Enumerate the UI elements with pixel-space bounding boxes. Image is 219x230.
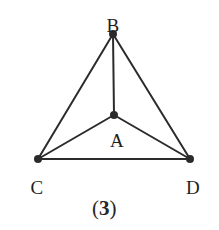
graph-edge-b-c	[38, 34, 113, 159]
graph-node-c	[34, 155, 42, 163]
figure-container: BACD (3)	[0, 0, 219, 230]
vertex-label-a: A	[110, 131, 124, 150]
caption-close-paren: )	[110, 196, 117, 220]
graph-edge-b-d	[113, 34, 190, 159]
vertex-label-d: D	[186, 178, 200, 197]
vertex-label-b: B	[107, 16, 120, 35]
graph-edge-a-c	[38, 115, 114, 159]
graph-edge-a-d	[114, 115, 190, 159]
graph-node-a	[110, 111, 118, 119]
vertex-label-c: C	[31, 178, 44, 197]
graph-edge-b-a	[113, 34, 114, 115]
caption-open-paren: (	[92, 196, 99, 220]
graph-node-d	[186, 155, 194, 163]
caption-number: 3	[99, 196, 110, 220]
figure-caption: (3)	[92, 198, 117, 219]
